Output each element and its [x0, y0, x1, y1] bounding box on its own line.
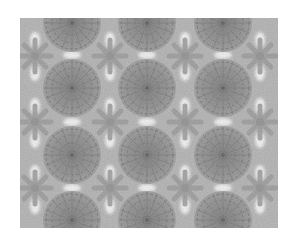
lace-photo	[20, 18, 278, 228]
